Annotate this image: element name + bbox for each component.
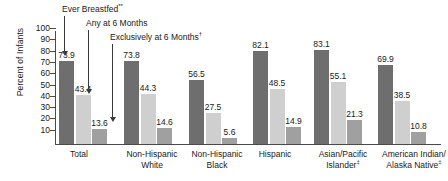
- breastfeeding-rates-bar-chart: Percent of Infants 100908070605040302010…: [0, 0, 448, 181]
- bar-group-3: 82.148.514.9: [253, 31, 305, 144]
- annotation-arrow-2: [112, 44, 113, 118]
- bar-4-2: [347, 120, 362, 144]
- y-tick-label-90: 90: [20, 35, 50, 43]
- value-label-3-0: 82.1: [246, 41, 275, 50]
- bar-2-0: [189, 80, 204, 144]
- annotation-arrow-0: [64, 16, 65, 52]
- y-tick-label-70: 70: [20, 58, 50, 66]
- value-label-2-1: 27.5: [199, 103, 228, 112]
- value-label-2-0: 56.5: [182, 70, 211, 79]
- category-label-5: American Indian/Alaska Native‡: [374, 149, 448, 170]
- value-label-0-1: 43.4: [69, 85, 98, 94]
- bar-group-0: 73.943.413.6: [59, 31, 111, 144]
- bar-0-2: [92, 129, 107, 144]
- x-axis-line: [55, 144, 441, 145]
- annotation-label-2: Exclusively at 6 Months†: [110, 32, 202, 42]
- value-label-1-1: 44.3: [134, 84, 163, 93]
- y-tick-label-100: 100: [20, 24, 50, 32]
- value-label-2-2: 5.6: [215, 128, 244, 137]
- value-label-5-2: 10.8: [404, 122, 433, 131]
- value-label-5-1: 38.5: [388, 91, 417, 100]
- y-tick-label-20: 20: [20, 114, 50, 122]
- bar-group-5: 69.938.510.8: [378, 31, 430, 144]
- plot-area: 73.943.413.673.844.314.656.527.55.682.14…: [56, 31, 441, 144]
- y-tick-label-80: 80: [20, 47, 50, 55]
- bar-3-0: [253, 51, 268, 144]
- annotation-label-0: Ever Breastfed**: [62, 4, 123, 14]
- category-label-4: Asian/PacificIslander‡: [306, 149, 380, 170]
- y-tick-label-50: 50: [20, 81, 50, 89]
- bar-group-4: 83.155.121.3: [314, 31, 366, 144]
- value-label-1-2: 14.6: [150, 118, 179, 127]
- value-label-3-2: 14.9: [279, 117, 308, 126]
- value-label-1-0: 73.8: [117, 51, 146, 60]
- category-label-3: Hispanic: [240, 149, 310, 160]
- value-label-3-1: 48.5: [263, 79, 292, 88]
- bar-2-2: [222, 138, 237, 144]
- y-tick-mark-100: [50, 28, 56, 29]
- bar-4-0: [314, 50, 329, 144]
- bar-group-2: 56.527.55.6: [189, 31, 241, 144]
- y-tick-label-30: 30: [20, 103, 50, 111]
- value-label-4-2: 21.3: [340, 110, 369, 119]
- value-label-4-1: 55.1: [324, 72, 353, 81]
- y-axis-tick-labels: 100908070605040302010: [20, 28, 50, 148]
- y-tick-label-10: 10: [20, 126, 50, 134]
- bar-3-2: [286, 127, 301, 144]
- bar-1-0: [124, 61, 139, 144]
- annotation-label-1: Any at 6 Months: [86, 18, 147, 28]
- bar-group-1: 73.844.314.6: [124, 31, 176, 144]
- bar-1-2: [157, 128, 172, 144]
- value-label-4-0: 83.1: [307, 40, 336, 49]
- bar-0-0: [59, 61, 74, 145]
- y-tick-label-60: 60: [20, 69, 50, 77]
- annotation-arrow-1: [88, 30, 89, 90]
- category-label-0: Total: [46, 149, 112, 160]
- bar-5-2: [411, 132, 426, 144]
- y-tick-label-40: 40: [20, 92, 50, 100]
- bar-5-0: [378, 65, 393, 144]
- value-label-5-0: 69.9: [371, 55, 400, 64]
